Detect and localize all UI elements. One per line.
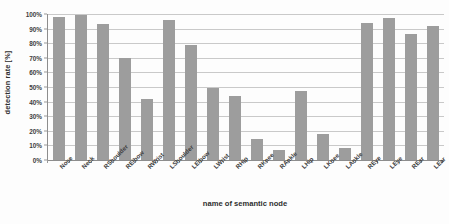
- x-axis-label-cell: REar: [399, 164, 421, 198]
- bar-lknee[interactable]: [317, 134, 328, 160]
- bar-slot: [114, 14, 136, 160]
- x-axis-label-cell: LWrist: [201, 164, 223, 198]
- bar-reye[interactable]: [361, 23, 372, 160]
- x-axis-title: name of semantic node: [47, 199, 443, 208]
- bar-slot: [70, 14, 92, 160]
- bar-lhip[interactable]: [295, 91, 306, 160]
- bar-lelbow[interactable]: [185, 45, 196, 160]
- x-axis-label-cell: Neck: [69, 164, 91, 198]
- x-axis-label-cell: LAnkle: [333, 164, 355, 198]
- bar-slot: [400, 14, 422, 160]
- x-axis-label-cell: RHip: [223, 164, 245, 198]
- bar-slot: [312, 14, 334, 160]
- bar-slot: [246, 14, 268, 160]
- x-axis-label-cell: RWrist: [135, 164, 157, 198]
- y-axis-tick-label: 50%: [29, 84, 42, 91]
- x-axis-label-cell: LElbow: [179, 164, 201, 198]
- x-axis-label-cell: LHip: [289, 164, 311, 198]
- y-axis-tick-labels: 100%90%80%70%60%50%40%30%20%10%0%: [16, 14, 44, 160]
- y-axis-tick-label: 90%: [29, 25, 42, 32]
- plot-area: [47, 14, 444, 161]
- y-axis-tick-label: 20%: [29, 127, 42, 134]
- bar-slot: [136, 14, 158, 160]
- x-axis-label-cell: LShoulder: [157, 164, 179, 198]
- bar-slot: [268, 14, 290, 160]
- bar-slot: [48, 14, 70, 160]
- x-axis-label-cell: Nose: [47, 164, 69, 198]
- bar-slot: [378, 14, 400, 160]
- y-axis-tick-label: 80%: [29, 40, 42, 47]
- bar-lshoulder[interactable]: [163, 20, 174, 160]
- bar-slot: [224, 14, 246, 160]
- y-axis-title-label: detection rate [%]: [4, 51, 13, 115]
- x-axis-label-cell: RKnee: [245, 164, 267, 198]
- bar-lear[interactable]: [427, 26, 438, 160]
- detection-rate-bar-chart: detection rate [%] 100%90%80%70%60%50%40…: [0, 0, 449, 224]
- bar-slot: [356, 14, 378, 160]
- y-axis-tick-label: 0%: [33, 157, 42, 164]
- y-axis-title: detection rate [%]: [0, 0, 16, 165]
- bar-slot: [334, 14, 356, 160]
- bar-neck[interactable]: [75, 15, 86, 160]
- bar-leye[interactable]: [383, 18, 394, 160]
- bar-slot: [158, 14, 180, 160]
- x-axis-tick-labels: NoseNeckRShoulderRElbowRWristLShoulderLE…: [47, 164, 443, 198]
- y-axis-tick-label: 60%: [29, 69, 42, 76]
- bar-slot: [202, 14, 224, 160]
- bar-rshoulder[interactable]: [97, 24, 108, 160]
- bar-nose[interactable]: [53, 17, 64, 160]
- x-axis-label-cell: RElbow: [113, 164, 135, 198]
- bar-slot: [180, 14, 202, 160]
- x-axis-label-cell: RAnkle: [267, 164, 289, 198]
- bar-rear[interactable]: [405, 34, 416, 160]
- x-axis-label-cell: LEar: [421, 164, 443, 198]
- x-axis-label-cell: RShoulder: [91, 164, 113, 198]
- bar-rknee[interactable]: [251, 139, 262, 160]
- x-axis-tick-mark: [47, 160, 48, 163]
- y-axis-tick-label: 100%: [26, 11, 42, 18]
- bar-slot: [92, 14, 114, 160]
- y-axis-tick-label: 70%: [29, 54, 42, 61]
- y-axis-tick-label: 40%: [29, 98, 42, 105]
- y-axis-tick-label: 10%: [29, 142, 42, 149]
- bar-slot: [290, 14, 312, 160]
- bar-slot: [422, 14, 444, 160]
- x-axis-label-cell: REye: [355, 164, 377, 198]
- y-axis-tick-label: 30%: [29, 113, 42, 120]
- x-axis-label-cell: LEye: [377, 164, 399, 198]
- bar-lwrist[interactable]: [207, 88, 218, 160]
- x-axis-label-cell: LKnee: [311, 164, 333, 198]
- bar-series: [48, 14, 444, 160]
- bar-rhip[interactable]: [229, 96, 240, 160]
